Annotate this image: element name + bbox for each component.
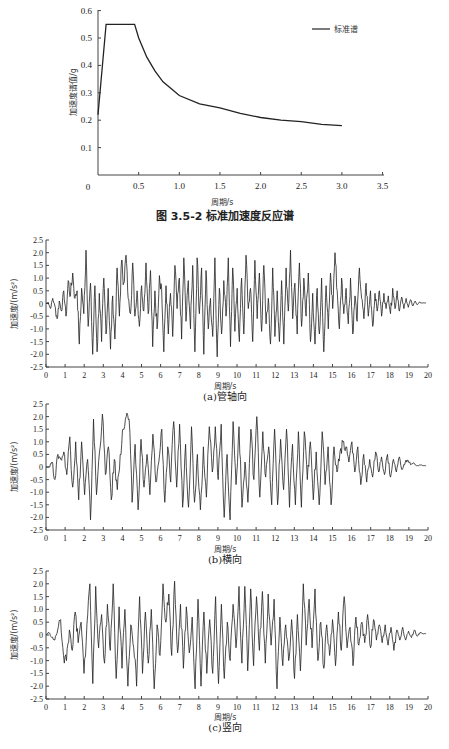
y-tick-label: 0.1 [81, 143, 92, 153]
x-tick-label: 15 [329, 371, 337, 380]
x-tick-label: 18 [386, 534, 394, 543]
x-tick-label: 17 [367, 371, 375, 380]
subcaption-c: (c)竖向 [208, 721, 241, 733]
x-tick-label: 1 [63, 371, 67, 380]
x-tick-label: 11 [252, 534, 260, 543]
x-tick-label: 3 [101, 371, 105, 380]
x-tick-label: 9 [216, 371, 220, 380]
x-tick-label: 8 [197, 371, 201, 380]
legend-label: 标准谱 [334, 24, 358, 34]
x-tick-label: 12 [271, 703, 279, 712]
x-tick-label: 9 [216, 703, 220, 712]
x-tick-label: 5 [140, 703, 144, 712]
x-tick-label: 4 [120, 371, 124, 380]
x-tick-label: 1 [63, 534, 67, 543]
x-tick-label: 17 [367, 703, 375, 712]
x-tick-label: 9 [216, 534, 220, 543]
x-tick-label: 15 [329, 534, 337, 543]
x-tick-label: 3.0 [336, 181, 348, 191]
x-tick-label: 11 [252, 371, 260, 380]
x-tick-label: 14 [309, 371, 317, 380]
time-history-chart-axial: 2.52.01.51.00.50-0.5-1.0-1.5-2.0-2.50123… [30, 236, 432, 380]
y-tick-label: 0 [39, 631, 43, 640]
y-tick-label: -2.0 [30, 350, 43, 359]
x-tick-label: 4 [120, 534, 124, 543]
x-tick-label: 14 [309, 534, 317, 543]
x-tick-label: 5 [140, 534, 144, 543]
y-tick-label: 1.0 [33, 274, 43, 283]
y-tick-label: 2.0 [33, 249, 43, 258]
x-axis-label-b: 周期/s [214, 545, 237, 554]
x-tick-label: 3 [101, 703, 105, 712]
x-tick-label: 4 [120, 703, 124, 712]
x-tick-label: 6 [159, 534, 163, 543]
x-tick-label: 0.5 [133, 181, 145, 191]
x-tick-label: 16 [348, 703, 356, 712]
y-tick-label: 2.5 [33, 567, 43, 576]
x-tick-label: 19 [405, 703, 413, 712]
x-tick-label: 1.0 [174, 181, 186, 191]
x-tick-label: 8 [197, 703, 201, 712]
y-tick-label: 0 [39, 463, 43, 472]
spectrum-curve [98, 24, 342, 125]
x-tick-label: 2 [82, 371, 86, 380]
x-tick-label: 18 [386, 703, 394, 712]
time-history-chart-transverse: 2.52.01.51.00.50-0.5-1.0-1.5-2.0-2.50123… [30, 400, 432, 543]
x-tick-label: 1 [63, 703, 67, 712]
y-tick-label: -1.0 [30, 657, 43, 666]
x-tick-label: 6 [159, 703, 163, 712]
x-axis-label-a: 周期/s [214, 382, 237, 391]
y-tick-label: -2.5 [30, 526, 43, 535]
x-tick-label: 20 [424, 371, 432, 380]
x-tick-label: 6 [159, 371, 163, 380]
x-tick-label: 1.5 [214, 181, 226, 191]
y-axis-label: 加速度谱值/g [68, 68, 78, 116]
x-tick-label: 13 [290, 703, 298, 712]
subcaption-a: (a)管轴向 [203, 390, 247, 402]
y-tick-label: 2.5 [33, 400, 43, 409]
x-tick-label: 0 [44, 371, 48, 380]
x-tick-label: 19 [405, 371, 413, 380]
x-axis-label-c: 周期/s [214, 713, 237, 722]
x-tick-label: 13 [290, 534, 298, 543]
x-tick-label: 3.5 [377, 181, 389, 191]
y-tick-label: 0.5 [33, 287, 43, 296]
y-tick-label: 1.0 [33, 438, 43, 447]
x-tick-label: 14 [309, 703, 317, 712]
x-tick-label: 2.0 [255, 181, 267, 191]
x-tick-label: 10 [233, 703, 241, 712]
figure-canvas: 0.10.20.30.40.50.6 0.51.01.52.02.53.03.5… [0, 0, 449, 749]
x-tick-label: 3 [101, 534, 105, 543]
x-tick-label: 5 [140, 371, 144, 380]
acceleration-trace [46, 413, 426, 520]
y-tick-label: -2.5 [30, 695, 43, 704]
figure-caption: 图 3.5-2 标准加速度反应谱 [156, 209, 294, 223]
y-tick-label: -1.5 [30, 338, 43, 347]
x-tick-label: 10 [233, 371, 241, 380]
x-tick-label: 20 [424, 703, 432, 712]
x-axis-label: 周期/s [211, 198, 234, 207]
y-tick-label: 0.5 [81, 33, 93, 43]
y-tick-label: -0.5 [30, 644, 43, 653]
subcaption-b: (b)横向 [208, 553, 242, 565]
y-tick-label: 2.0 [33, 413, 43, 422]
y-tick-label: -1.0 [30, 488, 43, 497]
x-tick-label: 7 [178, 371, 182, 380]
y-axis-label-c: 加速度/(m/s²) [9, 610, 19, 661]
x-tick-label: 15 [329, 703, 337, 712]
x-tick-label: 18 [386, 371, 394, 380]
y-tick-label: 0 [39, 300, 43, 309]
y-tick-label: 0.2 [81, 115, 92, 125]
time-history-chart-vertical: 2.52.01.51.00.50-0.5-1.0-1.5-2.0-2.50123… [30, 567, 432, 712]
y-tick-label: -1.5 [30, 501, 43, 510]
x-tick-label: 17 [367, 534, 375, 543]
x-tick-label: 2 [82, 703, 86, 712]
y-tick-label: -2.5 [30, 363, 43, 372]
y-tick-label: -0.5 [30, 312, 43, 321]
y-tick-label: -1.5 [30, 669, 43, 678]
x-tick-label: 12 [271, 534, 279, 543]
y-tick-label: 1.5 [33, 261, 43, 270]
y-tick-label: 0.5 [33, 618, 43, 627]
acceleration-trace [46, 250, 426, 357]
y-tick-label: -2.0 [30, 513, 43, 522]
